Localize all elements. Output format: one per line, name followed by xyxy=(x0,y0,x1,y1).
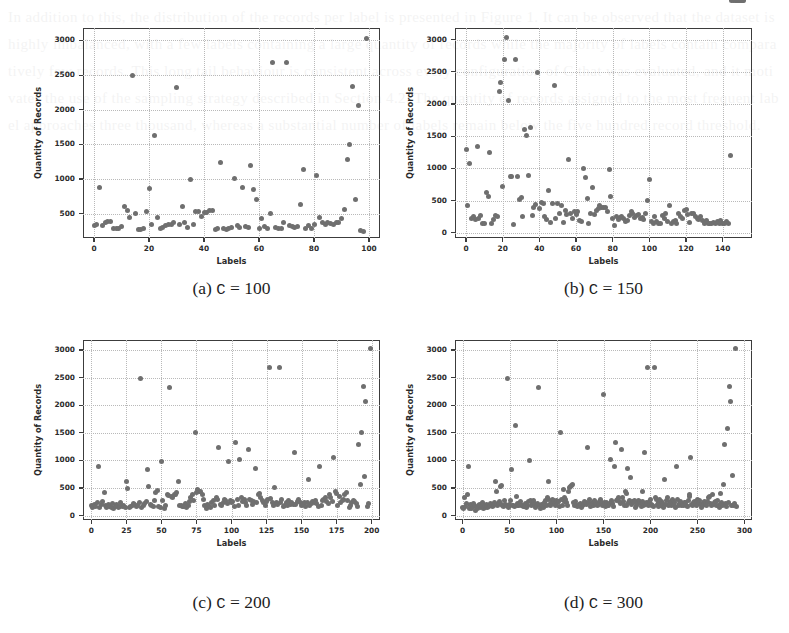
scatter-point xyxy=(561,487,566,492)
gridline-vertical xyxy=(510,340,511,520)
gridline-vertical xyxy=(557,340,558,520)
y-axis-tick-label: 2000 xyxy=(415,400,447,409)
y-axis-tick xyxy=(451,515,455,516)
y-axis-tick-label: 500 xyxy=(415,483,447,492)
scatter-point xyxy=(741,0,746,3)
y-axis-tick-label: 1000 xyxy=(415,455,447,464)
x-axis-tick-label: 200 xyxy=(630,526,670,535)
gridline-vertical xyxy=(463,340,464,520)
figure-grid: 50010001500200025003000020406080100Label… xyxy=(0,0,789,633)
x-axis-title: Labels xyxy=(455,538,752,548)
scatter-point xyxy=(608,457,613,462)
caption-value: = 300 xyxy=(598,592,643,612)
gridline-vertical xyxy=(697,340,698,520)
scatter-point xyxy=(514,494,519,499)
gridline-vertical xyxy=(744,340,745,520)
subfigure-caption-d: (d) C = 300 xyxy=(455,592,752,613)
x-axis-tick xyxy=(603,520,604,524)
y-axis-tick-label: 0 xyxy=(415,511,447,520)
scatter-panel-d: 0500100015002000250030000501001502002503… xyxy=(0,0,789,633)
x-axis-tick xyxy=(697,520,698,524)
scatter-point xyxy=(513,423,518,428)
x-axis-tick xyxy=(556,520,557,524)
scatter-point xyxy=(662,477,667,482)
y-axis-title: Quantity of Records xyxy=(405,340,415,520)
y-axis-tick xyxy=(451,377,455,378)
scatter-point xyxy=(499,483,504,488)
x-axis-tick xyxy=(744,520,745,524)
scatter-point xyxy=(640,489,645,494)
y-axis-tick xyxy=(451,405,455,406)
scatter-point xyxy=(585,445,590,450)
scatter-point xyxy=(613,440,618,445)
x-axis-tick xyxy=(462,520,463,524)
scatter-point xyxy=(734,504,739,509)
x-axis-tick-label: 50 xyxy=(490,526,530,535)
gridline-vertical xyxy=(604,340,605,520)
y-axis-tick xyxy=(451,349,455,350)
scatter-point xyxy=(721,482,726,487)
scatter-point xyxy=(733,346,738,351)
x-axis-tick-label: 150 xyxy=(584,526,624,535)
y-axis-tick xyxy=(451,432,455,433)
scatter-point xyxy=(624,491,629,496)
scatter-point xyxy=(494,489,499,494)
y-axis-tick-label: 2500 xyxy=(415,373,447,382)
caption-variable: C xyxy=(589,595,598,613)
x-axis-tick xyxy=(650,520,651,524)
x-axis-tick-label: 300 xyxy=(724,526,764,535)
y-axis-tick-label: 1500 xyxy=(415,428,447,437)
scatter-point xyxy=(652,365,657,370)
y-axis-tick-label: 3000 xyxy=(415,345,447,354)
x-axis-tick-label: 250 xyxy=(677,526,717,535)
caption-index: (d) xyxy=(564,592,589,612)
x-axis-tick-label: 0 xyxy=(443,526,483,535)
scatter-point xyxy=(725,426,730,431)
x-axis-tick-label: 100 xyxy=(537,526,577,535)
x-axis-tick xyxy=(509,520,510,524)
scatter-point xyxy=(508,498,513,503)
scatter-point xyxy=(505,376,510,381)
y-axis-tick xyxy=(451,487,455,488)
scatter-point xyxy=(465,492,470,497)
y-axis-tick xyxy=(451,460,455,461)
